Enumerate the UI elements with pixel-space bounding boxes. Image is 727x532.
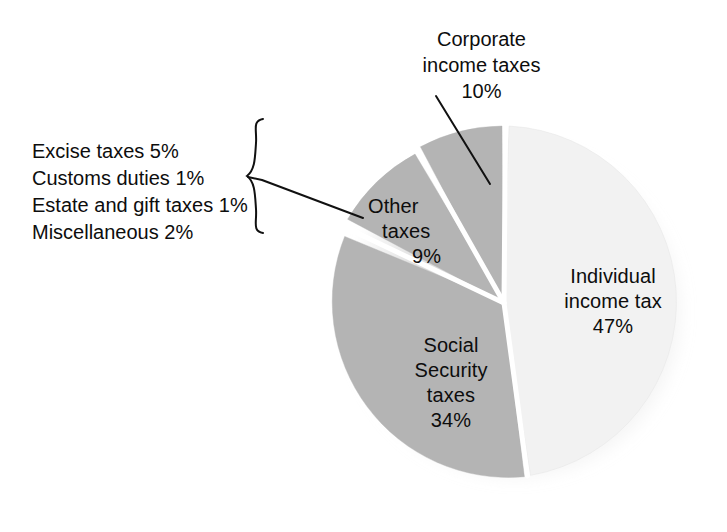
social-label-line3: taxes bbox=[392, 383, 510, 408]
other-taxes-breakdown-list: Excise taxes 5% Customs duties 1% Estate… bbox=[32, 138, 262, 246]
corporate-label-line1: Corporate bbox=[369, 26, 594, 52]
separator-individual-corporate bbox=[504, 126, 506, 303]
corporate-label-line2: income taxes bbox=[369, 52, 594, 78]
label-other-taxes: Other taxes 9% bbox=[368, 194, 488, 269]
social-label-line2: Security bbox=[392, 358, 510, 383]
social-label-line1: Social bbox=[392, 333, 510, 358]
label-corporate-income-taxes: Corporate income taxes 10% bbox=[369, 26, 594, 104]
other-taxes-label-line1: Other bbox=[368, 194, 488, 219]
breakdown-item-customs-duties: Customs duties 1% bbox=[32, 165, 262, 192]
corporate-label-value: 10% bbox=[369, 78, 594, 104]
other-taxes-label-line2: taxes bbox=[368, 219, 488, 244]
social-label-value: 34% bbox=[392, 408, 510, 433]
individual-label-line1: Individual bbox=[538, 264, 688, 289]
other-taxes-label-value: 9% bbox=[368, 244, 488, 269]
individual-label-value: 47% bbox=[538, 314, 688, 339]
other-taxes-leader-line bbox=[248, 177, 363, 218]
label-individual-income-tax: Individual income tax 47% bbox=[538, 264, 688, 339]
figure-canvas: Corporate income taxes 10% Other taxes 9… bbox=[0, 0, 727, 532]
label-social-security-taxes: Social Security taxes 34% bbox=[392, 333, 510, 433]
breakdown-item-excise-taxes: Excise taxes 5% bbox=[32, 138, 262, 165]
individual-label-line2: income tax bbox=[538, 289, 688, 314]
breakdown-item-estate-and-gift-taxes: Estate and gift taxes 1% bbox=[32, 192, 262, 219]
breakdown-item-miscellaneous: Miscellaneous 2% bbox=[32, 219, 262, 246]
